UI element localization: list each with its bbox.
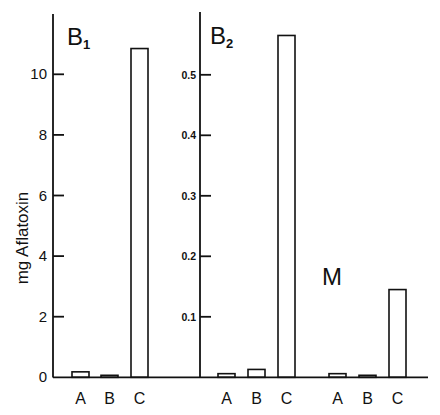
tick-label: 0.1 xyxy=(181,311,196,323)
panel-b2-bars xyxy=(218,35,295,377)
panel-b1-title: B1 xyxy=(67,23,90,52)
panel-b1-bars xyxy=(72,49,148,378)
tick-label: 0.2 xyxy=(181,250,196,262)
bar-c xyxy=(131,49,148,378)
tick-label: 8 xyxy=(39,126,47,143)
panel-b2-ticks: 0.10.20.30.40.5 xyxy=(181,69,211,323)
panel-m-bars xyxy=(329,290,406,378)
bar-c xyxy=(278,35,295,377)
bar-b xyxy=(248,369,265,377)
y-axis-label: mg Aflatoxin xyxy=(13,192,32,285)
tick-label: 0.3 xyxy=(181,190,196,202)
aflatoxin-bar-chart: mg Aflatoxin 0246810 B1 0.10.20.30.40.5 … xyxy=(0,0,440,415)
category-label: C xyxy=(392,390,404,407)
category-labels: ABCABCABC xyxy=(75,390,403,407)
panel-b2: 0.10.20.30.40.5 B2 xyxy=(181,12,295,378)
category-label: B xyxy=(251,390,262,407)
tick-label: 0.5 xyxy=(181,69,196,81)
category-label: A xyxy=(75,390,86,407)
category-label: B xyxy=(362,390,373,407)
tick-label: 6 xyxy=(39,187,47,204)
tick-label: 4 xyxy=(39,247,47,264)
category-label: C xyxy=(281,390,293,407)
tick-label: 0 xyxy=(39,368,47,385)
category-label: B xyxy=(104,390,115,407)
tick-label: 10 xyxy=(30,65,47,82)
panel-b2-title: B2 xyxy=(210,22,233,51)
category-label: A xyxy=(221,390,232,407)
bar-c xyxy=(389,290,406,378)
panel-b1: 0246810 B1 xyxy=(30,14,148,385)
tick-label: 2 xyxy=(39,308,47,325)
category-label: A xyxy=(332,390,343,407)
tick-label: 0.4 xyxy=(181,129,196,141)
category-label: C xyxy=(134,390,146,407)
panel-b1-ticks: 0246810 xyxy=(30,65,64,385)
panel-m-title: M xyxy=(322,263,342,290)
panel-m: M xyxy=(322,263,406,377)
